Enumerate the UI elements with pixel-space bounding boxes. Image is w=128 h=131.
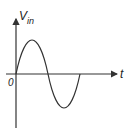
origin-label: 0 [8,77,14,88]
y-axis-label: Vin [19,9,34,26]
sine-diagram: Vin t 0 [0,0,128,131]
x-axis-label: t [120,67,124,81]
